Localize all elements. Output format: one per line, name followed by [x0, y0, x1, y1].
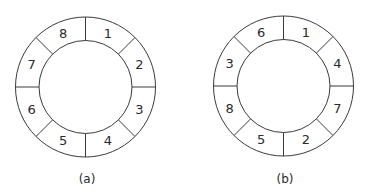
segment-label: 2 [302, 132, 310, 147]
segment-divider [118, 120, 135, 137]
segment-label: 5 [59, 133, 67, 148]
segment-label: 7 [28, 57, 36, 72]
segment-label: 1 [302, 25, 310, 40]
inner-circle [237, 40, 330, 133]
ring-diagram-b: 14725836 [214, 16, 354, 156]
segment-divider [118, 38, 135, 55]
inner-circle [39, 41, 132, 134]
diagram-canvas: 12345678 (a) 14725836 (b) [0, 0, 365, 195]
segment-divider [316, 37, 333, 54]
caption-a: (a) [79, 172, 96, 186]
segment-divider [36, 38, 53, 55]
caption-b: (b) [277, 172, 294, 186]
ring-diagram-a: 12345678 [16, 17, 156, 157]
segment-label: 1 [104, 26, 112, 41]
segment-label: 5 [257, 132, 265, 147]
segment-divider [316, 119, 333, 136]
segment-label: 7 [333, 101, 341, 116]
segment-label: 2 [135, 57, 143, 72]
segment-divider [234, 37, 251, 54]
segment-label: 3 [226, 56, 234, 71]
segment-label: 8 [226, 101, 234, 116]
segment-divider [36, 120, 53, 137]
segment-label: 4 [333, 56, 341, 71]
segment-label: 6 [257, 25, 265, 40]
segment-divider [234, 119, 251, 136]
segment-label: 4 [104, 133, 112, 148]
segment-label: 3 [135, 102, 143, 117]
segment-label: 6 [28, 102, 36, 117]
segment-label: 8 [59, 26, 67, 41]
